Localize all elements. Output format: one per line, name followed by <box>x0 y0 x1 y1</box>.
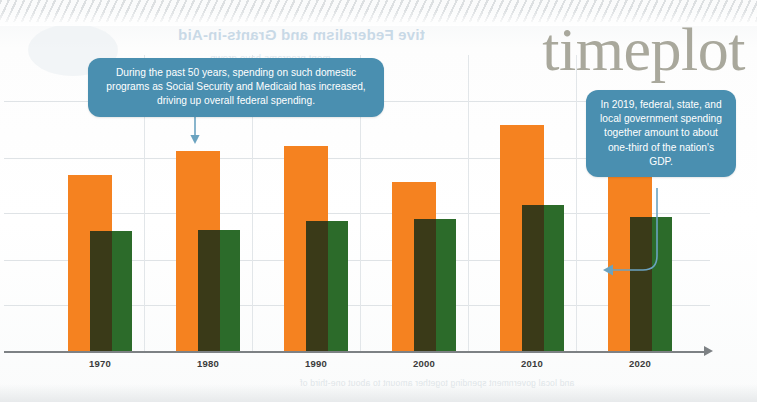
bar-overlap-2000 <box>414 219 436 352</box>
x-tick-label-1970: 1970 <box>70 358 130 369</box>
x-axis-line <box>4 351 707 353</box>
timeplot-label: timeplot <box>542 18 745 80</box>
x-tick-label-1980: 1980 <box>178 358 238 369</box>
x-tick-label-1990: 1990 <box>286 358 346 369</box>
callout-left-spending-note: During the past 50 years, spending on su… <box>88 58 384 117</box>
bar-overlap-1990 <box>306 221 328 352</box>
x-tick-label-2020: 2020 <box>610 358 670 369</box>
bar-overlap-2010 <box>522 205 544 352</box>
vertical-gridline <box>468 55 469 352</box>
page-top-hatch-fade <box>0 0 757 26</box>
x-axis-arrowhead <box>704 346 713 356</box>
vertical-gridline <box>576 55 577 352</box>
x-tick-label-2010: 2010 <box>502 358 562 369</box>
timeplot-figure: tive Federalism and Grants-in-Aid ment p… <box>0 0 757 402</box>
bar-overlap-1970 <box>90 231 112 352</box>
callout-right-gdp-note: In 2019, federal, state, and local gover… <box>586 90 736 177</box>
bar-overlap-2020 <box>630 217 652 352</box>
bar-overlap-1980 <box>198 230 220 352</box>
page-bottom-edge-shadow <box>0 384 757 402</box>
x-tick-label-2000: 2000 <box>394 358 454 369</box>
